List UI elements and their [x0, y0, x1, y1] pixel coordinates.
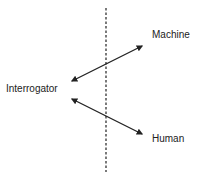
machine-label: Machine — [152, 29, 190, 40]
human-label: Human — [152, 133, 184, 144]
interrogator-label: Interrogator — [6, 83, 58, 94]
arrow-interrogator-machine — [72, 46, 142, 81]
turing-test-diagram: Machine Interrogator Human — [0, 0, 201, 177]
arrow-interrogator-human — [72, 99, 142, 134]
